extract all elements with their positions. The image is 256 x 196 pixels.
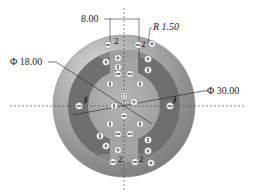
marker-dot-icon xyxy=(102,142,109,149)
fillet-radius-dimension: R 1.50 xyxy=(153,22,179,32)
region-label-left: 1 xyxy=(84,95,89,104)
slot-label-bottom-left: 2 xyxy=(118,155,123,164)
marker-minus-icon xyxy=(126,130,133,137)
marker-dot-icon xyxy=(144,147,151,154)
region-label-right: 1 xyxy=(173,95,178,104)
marker-bar-icon xyxy=(96,132,103,139)
marker-minus-icon xyxy=(126,70,133,77)
slot-label-top-left: 2 xyxy=(114,37,119,46)
marker-minus-icon xyxy=(75,102,82,109)
marker-bar-icon xyxy=(114,63,121,70)
marker-bar-icon xyxy=(106,80,113,87)
marker-bar-icon xyxy=(144,66,151,73)
marker-minus-icon xyxy=(109,158,116,165)
inner-diameter-dimension: Φ 18.00 xyxy=(10,57,42,67)
marker-minus-icon xyxy=(114,70,121,77)
marker-minus-icon xyxy=(131,158,138,165)
marker-dot-icon xyxy=(130,98,137,105)
marker-dot-icon xyxy=(144,55,151,62)
technical-drawing: 8.00 R 1.50 Φ 18.00 Φ 30.00 1 1 2 2 2 2 xyxy=(0,0,256,196)
marker-bar-icon xyxy=(136,120,143,127)
outer-diameter-dimension: Φ 30.00 xyxy=(207,86,239,96)
marker-dot-icon xyxy=(148,40,155,47)
drawing-canvas xyxy=(0,0,256,196)
marker-dot-icon xyxy=(147,159,154,166)
marker-minus-icon xyxy=(104,41,111,48)
marker-square-icon xyxy=(120,92,127,99)
marker-bar-icon xyxy=(136,80,143,87)
slot-label-top-right: 2 xyxy=(141,40,146,49)
marker-bar-icon xyxy=(106,120,113,127)
marker-dot-icon xyxy=(102,58,109,65)
marker-dot-icon xyxy=(114,54,121,61)
slot-width-dimension: 8.00 xyxy=(81,14,99,24)
marker-dot-icon xyxy=(114,146,121,153)
slot-label-bottom-right: 2 xyxy=(139,155,144,164)
marker-bar-icon xyxy=(144,136,151,143)
marker-minus-icon xyxy=(120,112,127,119)
marker-minus-icon xyxy=(114,130,121,137)
marker-bar-icon xyxy=(110,102,117,109)
